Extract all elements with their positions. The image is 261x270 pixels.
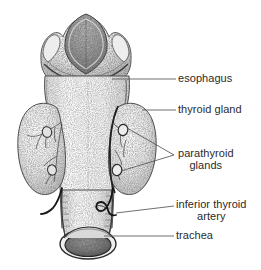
label-thyroid-gland-line1: thyroid gland: [178, 103, 242, 115]
thyroid-lobe-right-texture: [109, 103, 157, 194]
label-thyroid-gland: thyroid gland: [178, 104, 242, 116]
thyroid-lobe-right: [109, 103, 157, 194]
leader-inferior-thyroid-artery: [116, 206, 174, 213]
label-inferior-thyroid-artery-line1: inferior thyroid: [176, 199, 247, 211]
anatomy-illustration: [0, 0, 261, 270]
thyroid-lobe-left: [18, 103, 66, 194]
label-trachea-line1: trachea: [176, 229, 213, 241]
label-trachea: trachea: [176, 230, 213, 242]
trachea-group: [60, 190, 116, 259]
label-esophagus-line1: esophagus: [178, 72, 232, 84]
label-esophagus: esophagus: [178, 73, 232, 85]
label-parathyroid-glands-line2: glands: [178, 160, 234, 172]
larynx-group: [41, 14, 131, 81]
label-parathyroid-glands-line1: parathyroid: [178, 148, 234, 160]
label-inferior-thyroid-artery: inferior thyroid artery: [176, 199, 247, 222]
label-inferior-thyroid-artery-line2: artery: [176, 211, 247, 223]
label-parathyroid-glands: parathyroid glands: [178, 148, 234, 171]
thyroid-lobe-left-texture: [18, 103, 66, 194]
anatomical-figure: esophagus thyroid gland parathyroid glan…: [0, 0, 261, 270]
